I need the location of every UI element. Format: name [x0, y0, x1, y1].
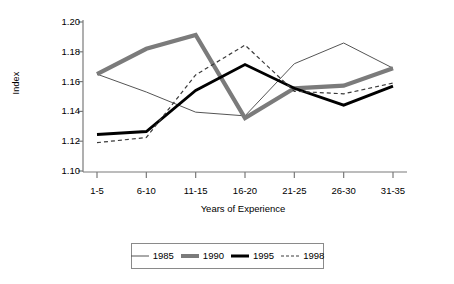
legend-item-1985[interactable]: 1985 — [131, 251, 174, 261]
x-axis-tick-marks — [97, 172, 393, 178]
y-tick-label: 1.10 — [46, 166, 80, 175]
y-tick-label: 1.12 — [46, 136, 80, 145]
y-tick-label: 1.14 — [46, 106, 80, 115]
x-tick-label: 26-30 — [324, 185, 364, 196]
legend-swatch-1990-icon — [181, 252, 199, 260]
legend-swatch-1985-icon — [131, 252, 149, 260]
y-tick-label: 1.18 — [46, 47, 80, 56]
data-series-group — [97, 35, 393, 143]
legend-label-1998: 1998 — [303, 251, 324, 261]
legend-label-1985: 1985 — [153, 251, 174, 261]
x-axis-title: Years of Experience — [83, 203, 403, 214]
x-tick-label: 1-5 — [77, 185, 117, 196]
series-line-1985 — [97, 43, 393, 116]
series-line-1990 — [97, 35, 393, 118]
y-axis-title: Index — [11, 53, 21, 113]
y-tick-label: 1.16 — [46, 77, 80, 86]
line-chart: Index 1.201.181.161.141.121.10 1-56-1011… — [0, 0, 454, 284]
x-tick-label: 6-10 — [126, 185, 166, 196]
legend-item-1990[interactable]: 1990 — [181, 251, 224, 261]
x-tick-label: 21-25 — [274, 185, 314, 196]
legend-swatch-1998-icon — [281, 252, 299, 260]
x-tick-label: 16-20 — [225, 185, 265, 196]
legend-item-1995[interactable]: 1995 — [231, 251, 274, 261]
y-axis-tick-labels: 1.201.181.161.141.121.10 — [42, 0, 80, 200]
chart-legend: 1985 1990 1995 1998 — [131, 243, 324, 269]
y-tick-label: 1.20 — [46, 17, 80, 26]
legend-label-1990: 1990 — [203, 251, 224, 261]
x-tick-label: 11-15 — [176, 185, 216, 196]
x-tick-label: 31-35 — [373, 185, 413, 196]
series-line-1998 — [97, 45, 393, 143]
legend-swatch-1995-icon — [231, 252, 249, 260]
axis-lines — [83, 20, 407, 172]
legend-item-1998[interactable]: 1998 — [281, 251, 324, 261]
legend-label-1995: 1995 — [253, 251, 274, 261]
series-line-1995 — [97, 64, 393, 134]
